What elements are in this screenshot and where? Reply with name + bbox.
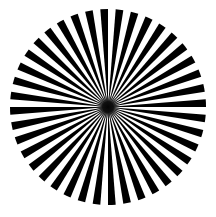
starburst-svg xyxy=(0,0,216,217)
center-hub-icon xyxy=(96,95,120,119)
starburst-figure-canvas: Radial starburst pattern xyxy=(0,0,216,217)
